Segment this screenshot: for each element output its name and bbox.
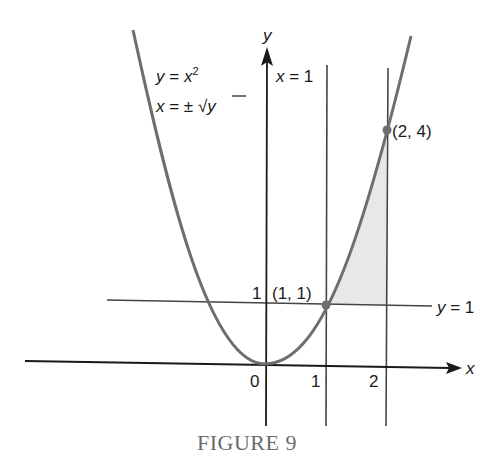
figure-caption: FIGURE 9: [197, 430, 297, 455]
point-label-2-4: (2, 4): [392, 122, 432, 141]
equation-inverse: x = ± √y: [155, 97, 217, 116]
equation-parabola: y = x2: [155, 65, 199, 86]
point-1-1: [322, 301, 331, 310]
equation-y-equals-1: y = 1: [436, 298, 474, 317]
shaded-region: [326, 129, 386, 305]
point-2-4: [383, 126, 392, 135]
tick-x-2: 2: [369, 372, 378, 391]
point-label-1-1: (1, 1): [272, 284, 312, 303]
x-axis-label: x: [465, 359, 475, 378]
figure-canvas: y x 0 1 2 1 y = x2 x = ± √y x = 1 y = 1 …: [0, 0, 501, 459]
tick-x-1: 1: [311, 372, 320, 391]
tick-origin: 0: [250, 372, 259, 391]
y-axis: [266, 58, 267, 426]
line-x-equals-2: [386, 68, 388, 426]
equation-x-equals-1: x = 1: [275, 67, 313, 86]
line-x-equals-1: [326, 65, 327, 426]
tick-y-1: 1: [252, 284, 261, 303]
y-axis-label: y: [262, 26, 273, 45]
